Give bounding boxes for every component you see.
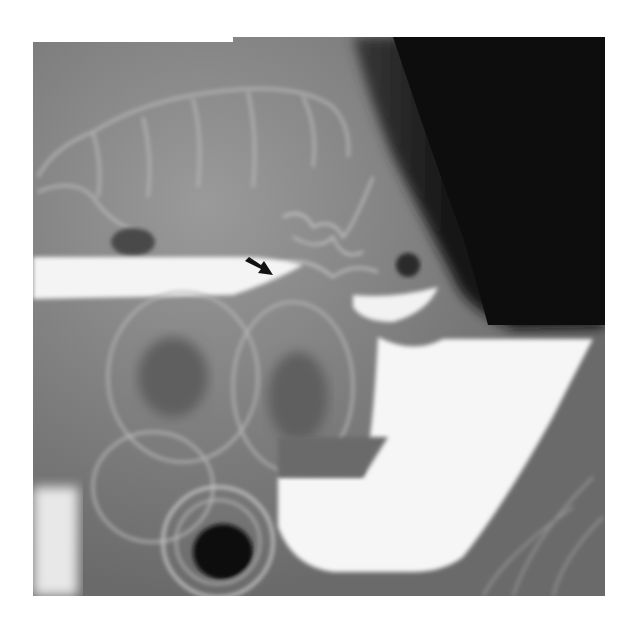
radiograph-image (33, 37, 605, 596)
arrow-icon (245, 257, 275, 279)
